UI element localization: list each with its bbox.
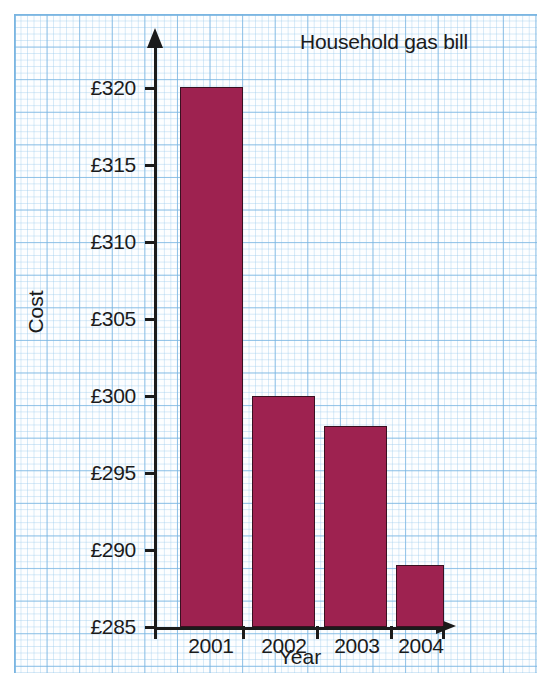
bar-2002[interactable] (252, 396, 315, 627)
y-tick-label-2-wrap: £310 (58, 230, 136, 254)
y-axis-title: Cost (24, 272, 48, 352)
y-tick-0 (145, 87, 157, 90)
y-tick-label-3: £305 (58, 307, 136, 331)
y-tick-label-5: £295 (58, 461, 136, 485)
y-tick-1 (145, 164, 157, 167)
y-tick-label-6: £290 (58, 538, 136, 562)
y-tick-label-0-wrap: £320 (58, 76, 136, 100)
y-tick-label-4: £300 (58, 384, 136, 408)
x-axis-title: Year (230, 645, 370, 669)
y-tick-3 (145, 318, 157, 321)
bar-2004[interactable] (396, 565, 444, 627)
chart-page: Household gas bill £320 £315 £310 £305 £… (0, 0, 537, 673)
y-tick-label-3-wrap: £305 (58, 307, 136, 331)
y-tick-label-7-wrap: £285 (58, 615, 136, 639)
bar-2001[interactable] (180, 87, 243, 627)
bar-chart: Household gas bill £320 £315 £310 £305 £… (0, 0, 537, 673)
y-tick-4 (145, 395, 157, 398)
y-tick-label-6-wrap: £290 (58, 538, 136, 562)
y-tick-6 (145, 549, 157, 552)
x-tick-0 (154, 626, 157, 639)
x-tick-label-2004: 2004 (385, 634, 457, 658)
x-axis-line (154, 627, 444, 630)
y-tick-label-1: £315 (58, 153, 136, 177)
y-tick-5 (145, 472, 157, 475)
bar-2003[interactable] (324, 426, 387, 627)
y-tick-2 (145, 241, 157, 244)
y-tick-label-7: £285 (58, 615, 136, 639)
y-axis-arrow-icon (147, 28, 163, 48)
y-tick-label-2: £310 (58, 230, 136, 254)
y-tick-label-4-wrap: £300 (58, 384, 136, 408)
y-axis-line (154, 44, 157, 630)
y-tick-label-1-wrap: £315 (58, 153, 136, 177)
chart-title: Household gas bill (300, 30, 468, 54)
y-tick-label-0: £320 (58, 76, 136, 100)
y-tick-label-5-wrap: £295 (58, 461, 136, 485)
